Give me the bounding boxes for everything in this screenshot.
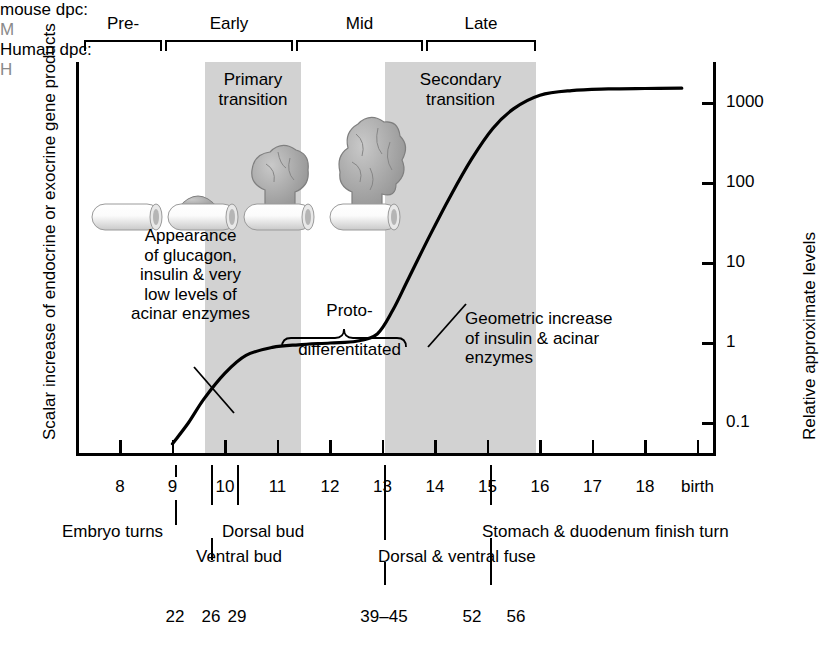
y-tick-label-100: 100 — [726, 172, 754, 192]
event-label-dorsal-bud: Ventral bud — [196, 547, 282, 567]
human-dpc-2: 29 — [197, 607, 277, 627]
stage-bracket-early — [165, 40, 293, 51]
event-label-stomach-duodenum: Stomach & duodenum finish turn — [482, 522, 729, 542]
x-tick-9 — [172, 440, 175, 453]
leader-geometric — [428, 304, 466, 347]
annotation-proto: Proto- differentitated — [272, 281, 427, 379]
x-tick-birth — [697, 440, 700, 453]
stage-label-late: Late — [426, 14, 536, 34]
leader-ventral-bud — [237, 465, 239, 505]
y-axis-right — [713, 62, 716, 456]
human-dpc-5: 56 — [476, 607, 556, 627]
mouse-dpc-birth: birth — [664, 477, 732, 497]
x-tick-11 — [277, 440, 280, 453]
stage-label-mid: Mid — [296, 14, 423, 34]
y-axis-left — [76, 62, 79, 456]
y-tick-100 — [702, 182, 716, 185]
annotation-proto-line1: Proto- — [272, 301, 427, 321]
y-tick-label-10: 10 — [726, 252, 745, 272]
x-tick-10 — [224, 440, 227, 453]
x-tick-15 — [487, 440, 490, 453]
y-axis-right-title: Relative approximate levels — [800, 232, 820, 440]
annotation-appearance: Appearance of glucagon, insulin & very l… — [98, 226, 283, 324]
y-tick-label-1: 1 — [726, 332, 735, 352]
event-label-dorsal-ventral-fuse: Dorsal & ventral fuse — [378, 547, 536, 567]
x-tick-14 — [434, 440, 437, 453]
y-axis-left-title: Scalar increase of endocrine or exocrine… — [40, 60, 60, 440]
x-tick-18 — [644, 440, 647, 453]
leader-dorsal-bud — [211, 465, 213, 505]
y-tick-1000 — [702, 102, 716, 105]
leader-stomach-duodenum — [490, 465, 492, 505]
y-tick-label-1000: 1000 — [726, 92, 764, 112]
annotation-geometric: Geometric increase of insulin & acinar e… — [465, 309, 675, 368]
figure-root: Pre-EarlyMidLate — [0, 0, 830, 647]
x-tick-17 — [592, 440, 595, 453]
human-dpc-3: 39–45 — [344, 607, 424, 627]
event-label-ventral-bud: Dorsal bud — [222, 522, 304, 542]
y-tick-1 — [702, 342, 716, 345]
stage-label-pre: Pre- — [84, 14, 162, 34]
stage-bracket-pre — [84, 40, 162, 51]
x-tick-13 — [382, 440, 385, 453]
x-tick-16 — [539, 440, 542, 453]
y-tick-label-0p1: 0.1 — [726, 412, 750, 432]
plot-area: PrimarytransitionSecondarytransition App… — [76, 62, 716, 456]
stage-bracket-late — [426, 40, 536, 51]
leader-stomach-duodenum — [490, 538, 492, 585]
leader-dorsal-ventral-fuse — [384, 465, 386, 540]
event-label-embryo-turns: Embryo turns — [62, 522, 163, 542]
y-tick-0p1 — [702, 422, 716, 425]
stage-label-early: Early — [165, 14, 293, 34]
x-tick-8 — [119, 440, 122, 453]
leader-embryo-turns — [175, 500, 177, 525]
annotation-proto-line2: differentitated — [272, 340, 427, 360]
y-tick-10 — [702, 262, 716, 265]
x-axis-bottom — [76, 453, 716, 456]
x-tick-12 — [329, 440, 332, 453]
leader-embryo-turns — [175, 465, 177, 477]
stage-bracket-mid — [296, 40, 423, 51]
